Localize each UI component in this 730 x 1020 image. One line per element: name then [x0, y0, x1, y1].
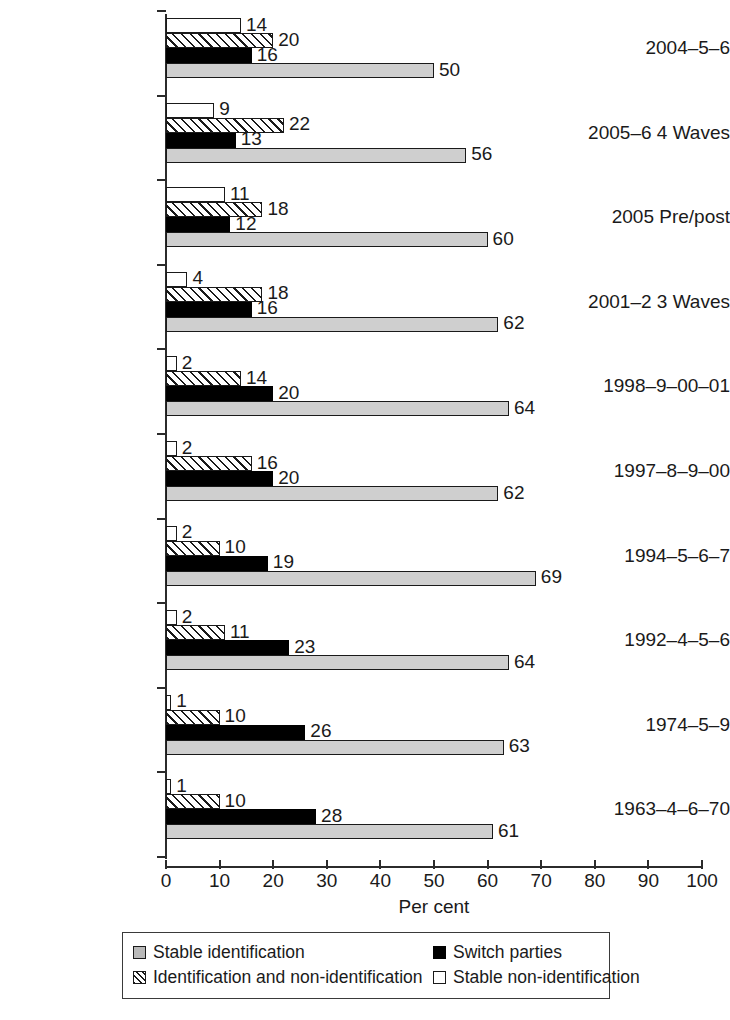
x-axis-tick-label: 0 [161, 870, 172, 892]
bar [166, 571, 536, 586]
category-label: 2004–5–6 [580, 37, 730, 59]
legend-item-stable-identification: Stable identification [133, 942, 433, 963]
x-axis-tick [379, 860, 381, 869]
plot-area: 1420165092213561118126041816622142064216… [0, 0, 730, 890]
category-label: 2005–6 4 Waves [580, 122, 730, 144]
y-axis-tick [157, 856, 166, 858]
x-axis-tick [647, 860, 649, 869]
open-square-icon [433, 971, 446, 984]
bar-value-label: 64 [514, 397, 535, 419]
bar-value-label: 62 [503, 482, 524, 504]
bar [166, 625, 225, 640]
black-filled-square-icon [433, 946, 446, 959]
y-axis-tick [157, 95, 166, 97]
bar [166, 809, 316, 824]
y-axis-tick [157, 518, 166, 520]
grey-fill-square-icon [133, 946, 146, 959]
legend-label: Switch parties [453, 942, 562, 963]
legend-row: Identification and non-identification St… [133, 965, 599, 990]
category-label: 1998–9–00–01 [580, 375, 730, 397]
bar [166, 655, 509, 670]
bar-value-label: 64 [514, 651, 535, 673]
x-axis-tick-label: 70 [531, 870, 552, 892]
x-axis-tick [272, 860, 274, 869]
bar [166, 526, 177, 541]
bar [166, 232, 488, 247]
bar [166, 541, 220, 556]
bar [166, 710, 220, 725]
category-label: 1994–5–6–7 [580, 545, 730, 567]
bar-value-label: 61 [498, 820, 519, 842]
bar [166, 317, 498, 332]
bar [166, 148, 466, 163]
bar-value-label: 22 [289, 113, 310, 135]
bar [166, 18, 241, 33]
y-axis-tick [157, 687, 166, 689]
legend-item-stable-non-identification: Stable non-identification [433, 967, 599, 988]
bar-value-label: 20 [278, 29, 299, 51]
bar [166, 824, 493, 839]
bar [166, 386, 273, 401]
bar [166, 371, 241, 386]
bar [166, 556, 268, 571]
bar-value-label: 60 [493, 228, 514, 250]
bar-value-label: 63 [509, 735, 530, 757]
bar [166, 118, 284, 133]
bar-value-label: 62 [503, 312, 524, 334]
category-label: 1963–4–6–70 [580, 798, 730, 820]
legend-item-identification-and-non-identification: Identification and non-identification [133, 967, 433, 988]
bar [166, 471, 273, 486]
x-axis-tick [165, 860, 167, 869]
y-axis-tick [157, 264, 166, 266]
bar [166, 740, 504, 755]
bar [166, 779, 171, 794]
category-label: 1992–4–5–6 [580, 629, 730, 651]
bar [166, 302, 252, 317]
x-axis-tick-label: 40 [370, 870, 391, 892]
category-label: 2001–2 3 Waves [580, 291, 730, 313]
bar [166, 725, 305, 740]
y-axis-tick [157, 602, 166, 604]
x-axis-tick [701, 860, 703, 869]
bar [166, 456, 252, 471]
x-axis-tick [433, 860, 435, 869]
chart-legend: Stable identification Switch parties Ide… [122, 932, 610, 999]
chart-figure: 1420165092213561118126041816622142064216… [0, 0, 730, 1020]
bar [166, 272, 187, 287]
x-axis-tick [594, 860, 596, 869]
x-axis-tick [219, 860, 221, 869]
x-axis-title: Per cent [165, 896, 703, 918]
bar [166, 103, 214, 118]
y-axis-tick [157, 179, 166, 181]
bar [166, 187, 225, 202]
category-label: 1974–5–9 [580, 714, 730, 736]
y-axis-tick [157, 10, 166, 12]
x-axis-tick-label: 60 [477, 870, 498, 892]
bar [166, 48, 252, 63]
bar [166, 695, 171, 710]
bar-value-label: 56 [471, 143, 492, 165]
x-axis-tick-label: 30 [316, 870, 337, 892]
bar [166, 217, 230, 232]
x-axis-tick-label: 100 [686, 870, 718, 892]
bar [166, 63, 434, 78]
bar [166, 610, 177, 625]
x-axis-tick-label: 10 [209, 870, 230, 892]
x-axis-tick-label: 20 [263, 870, 284, 892]
bar-value-label: 18 [267, 198, 288, 220]
x-axis-tick-label: 80 [584, 870, 605, 892]
x-axis-tick [540, 860, 542, 869]
y-axis-tick [157, 348, 166, 350]
category-label: 2005 Pre/post [580, 206, 730, 228]
legend-label: Stable identification [153, 942, 305, 963]
bar [166, 640, 289, 655]
bar-value-label: 50 [439, 59, 460, 81]
legend-row: Stable identification Switch parties [133, 940, 599, 965]
bar [166, 401, 509, 416]
x-axis-tick-label: 90 [638, 870, 659, 892]
legend-label: Stable non-identification [453, 967, 640, 988]
bar [166, 287, 262, 302]
bar [166, 794, 220, 809]
y-axis-tick [157, 771, 166, 773]
y-axis-tick [157, 433, 166, 435]
